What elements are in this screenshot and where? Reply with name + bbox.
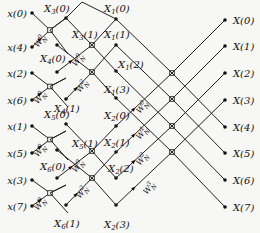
input-label: x(0) [7, 8, 27, 19]
output-label: X(0) [232, 15, 254, 26]
output-label: X(3) [232, 95, 254, 106]
fft-butterfly-diagram: W0NW0NW0NW0Nx(0)x(4)x(2)x(6)x(1)x(5)x(3)… [0, 0, 260, 233]
signal-edge [50, 78, 66, 87]
signal-edge [172, 126, 225, 180]
input-node [30, 124, 34, 128]
input-label: x(7) [7, 201, 27, 212]
output-node [223, 125, 227, 129]
twiddle-factor-stage2: W2N [73, 182, 92, 201]
twiddle-factor-stage2: W2N [73, 76, 92, 95]
output-node [223, 71, 227, 75]
signal-edge [50, 185, 66, 193]
twiddle-factor-stage1: W0N [31, 141, 50, 160]
svg-text:W0N: W0N [133, 97, 152, 116]
input-node [30, 45, 34, 49]
signal-edge [50, 193, 68, 213]
butterfly-flow-graph: W0NW0NW0NW0Nx(0)x(4)x(2)x(6)x(1)x(5)x(3)… [0, 0, 260, 233]
input-label: x(2) [7, 68, 27, 79]
stage2-output-label: X2(3) [103, 219, 130, 232]
stage1-output-label: X6(1) [53, 218, 80, 231]
svg-text:W2N: W2N [73, 76, 92, 95]
input-node [30, 98, 34, 102]
input-node [30, 178, 34, 182]
svg-text:W0N: W0N [31, 141, 50, 160]
stage1-output-label: X5(0) [43, 109, 70, 122]
twiddle-factor-stage3: W1N [133, 123, 152, 142]
stage2-output-label: X2(1) [103, 137, 130, 150]
stage1-output-label: X3(1) [71, 29, 98, 42]
output-label: X(2) [232, 68, 254, 79]
signal-edge [50, 131, 66, 140]
signal-edge [172, 46, 225, 99]
input-label: x(6) [7, 95, 27, 106]
twiddle-factor-stage1: W0N [31, 88, 50, 107]
signal-edge [172, 20, 225, 73]
output-node [223, 18, 227, 22]
stage2-output-label: X1(1) [103, 29, 130, 42]
input-label: x(5) [7, 148, 27, 159]
input-label: x(1) [7, 121, 27, 132]
twiddle-factor-stage3: W3N [140, 178, 159, 197]
signal-edge [50, 18, 66, 30]
svg-text:W0N: W0N [31, 88, 50, 107]
input-node [30, 151, 34, 155]
input-label: x(4) [7, 42, 27, 53]
input-node [30, 204, 34, 208]
output-label: X(7) [232, 202, 254, 213]
twiddle-factor-stage1: W0N [31, 194, 50, 213]
twiddle-factor-stage3: W2N [133, 149, 152, 168]
output-label: X(5) [232, 148, 254, 159]
input-label: x(3) [7, 175, 27, 186]
svg-text:W2N: W2N [133, 149, 152, 168]
svg-text:W2N: W2N [73, 182, 92, 201]
svg-text:W3N: W3N [140, 178, 159, 197]
svg-text:W1N: W1N [133, 123, 152, 142]
stage1-output-label: X3(0) [43, 3, 70, 16]
input-node [30, 11, 34, 15]
stage2-output-label: X1(3) [103, 84, 130, 97]
output-node [223, 98, 227, 102]
output-label: X(4) [232, 122, 254, 133]
stage1-output-label: X4(0) [39, 53, 66, 66]
output-node [223, 205, 227, 209]
signal-edge [50, 30, 68, 54]
input-node [30, 71, 34, 75]
output-label: X(6) [232, 175, 254, 186]
output-node [223, 178, 227, 182]
output-node [223, 44, 227, 48]
stage2-output-label: X1(2) [117, 59, 144, 72]
output-label: X(1) [232, 41, 254, 52]
stage1-output-label: X6(0) [39, 161, 66, 174]
signal-edge [172, 152, 225, 207]
svg-text:W0N: W0N [31, 194, 50, 213]
output-node [223, 151, 227, 155]
signal-edge [92, 178, 116, 205]
twiddle-factor-stage3: W0N [133, 97, 152, 116]
